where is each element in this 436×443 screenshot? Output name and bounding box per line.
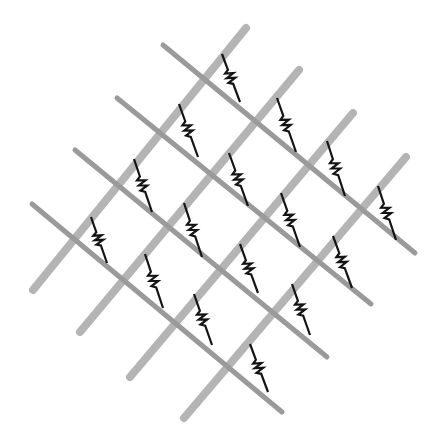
resistor-lattice-diagram [0, 0, 436, 443]
